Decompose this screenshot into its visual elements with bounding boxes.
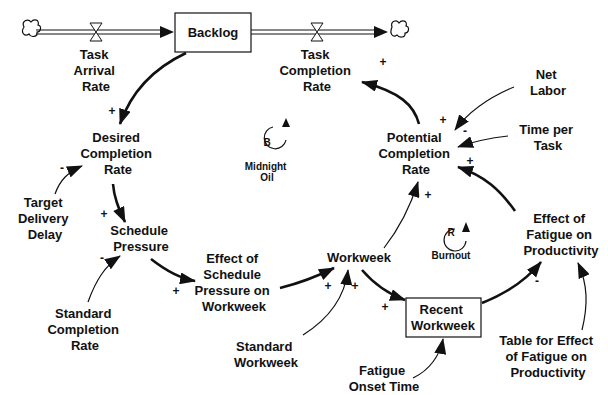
recent-workweek-label: Recent Workweek — [411, 302, 476, 333]
svg-text:R: R — [447, 227, 455, 238]
link-recent-fatigue — [482, 262, 541, 303]
svg-text:+: + — [439, 113, 446, 127]
svg-text:+: + — [379, 55, 386, 69]
backlog-label: Backlog — [188, 25, 239, 40]
svg-text:+: + — [108, 104, 115, 118]
svg-text:+: + — [381, 300, 388, 314]
svg-text:-: - — [535, 274, 539, 288]
link-potential-completion — [362, 82, 419, 124]
link-desired-pressure — [113, 184, 125, 222]
time-per-task-label: Time per Task — [519, 122, 577, 153]
link-onset-recent — [413, 339, 443, 378]
fatigue-onset-time-label: Fatigue Onset Time — [349, 363, 420, 394]
link-fatigue-potential — [458, 167, 515, 211]
schedule-pressure-label: Schedule Pressure — [110, 223, 171, 254]
effect-of-schedule-pressure-label: Effect of Schedule Pressure on Workweek — [195, 251, 274, 314]
recent-workweek-stock: Recent Workweek — [406, 298, 481, 337]
svg-text:+: + — [324, 279, 331, 293]
svg-text:-: - — [463, 124, 467, 138]
target-delivery-delay-label: Target Delivery Delay — [18, 195, 72, 242]
svg-text:+: + — [424, 188, 431, 202]
svg-text:-: - — [60, 161, 64, 175]
standard-workweek-label: Standard Workweek — [234, 339, 299, 370]
link-pressure-effect — [151, 259, 195, 281]
svg-text:+: + — [100, 207, 107, 221]
potential-completion-rate-label: Potential Completion Rate — [378, 130, 453, 177]
link-workweek-potential — [384, 182, 418, 248]
flow-arrowhead-icon — [160, 26, 174, 38]
svg-text:+: + — [466, 154, 473, 168]
link-table-fatigue — [578, 263, 586, 330]
svg-text:+: + — [172, 284, 179, 298]
svg-text:Midnight Oil: Midnight Oil — [245, 161, 289, 183]
backlog-stock: Backlog — [175, 13, 251, 52]
task-arrival-pipe — [36, 26, 174, 38]
task-completion-rate-label: Task Completion Rate — [279, 47, 354, 94]
svg-text:+: + — [351, 279, 358, 293]
net-labor-label: Net Labor — [530, 67, 566, 98]
link-backlog-desired — [120, 53, 186, 124]
diagram-canvas: Task Arrival Rate Backlog Task Completio… — [0, 0, 608, 395]
task-arrival-valve-icon — [90, 23, 102, 41]
link-workweek-recent — [362, 270, 405, 300]
loop-b-midnight-oil: B Midnight Oil — [245, 118, 290, 183]
flow-arrowhead-icon — [374, 26, 388, 38]
sink-cloud-icon — [391, 21, 409, 37]
standard-completion-rate-label: Standard Completion Rate — [47, 306, 122, 353]
svg-text:-: - — [100, 251, 104, 265]
desired-completion-rate-label: Desired Completion Rate — [80, 130, 155, 177]
svg-text:B: B — [263, 137, 270, 148]
svg-text:Burnout: Burnout — [432, 250, 472, 261]
table-effect-fatigue-label: Table for Effect of Fatigue on Productiv… — [499, 333, 596, 380]
loop-r-burnout: R Burnout — [432, 222, 472, 261]
task-arrival-rate-label: Task Arrival Rate — [74, 47, 119, 94]
task-completion-valve-icon — [311, 23, 323, 41]
workweek-label: Workweek — [327, 250, 392, 265]
link-stdrate-pressure — [88, 256, 120, 302]
effect-of-fatigue-label: Effect of Fatigue on Productivity — [523, 211, 599, 258]
